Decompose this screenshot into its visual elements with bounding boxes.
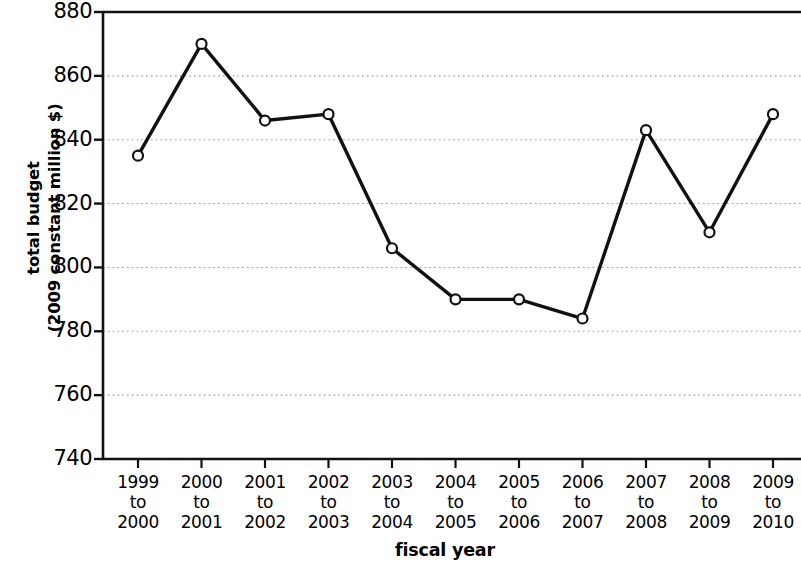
- line-chart: total budget (2009 constant million $) 7…: [0, 0, 801, 572]
- gridlines: [103, 76, 801, 459]
- data-point: [514, 294, 524, 304]
- data-point: [387, 243, 397, 253]
- data-point: [324, 109, 334, 119]
- axis-ticks: [94, 12, 773, 468]
- plot-area: [0, 0, 801, 572]
- data-point: [451, 294, 461, 304]
- data-point: [768, 109, 778, 119]
- data-point: [197, 39, 207, 49]
- data-point: [578, 314, 588, 324]
- data-point: [641, 125, 651, 135]
- data-point: [260, 116, 270, 126]
- data-point: [133, 151, 143, 161]
- data-line: [138, 44, 773, 319]
- data-point: [705, 227, 715, 237]
- data-markers: [133, 39, 778, 324]
- axes: [103, 12, 801, 459]
